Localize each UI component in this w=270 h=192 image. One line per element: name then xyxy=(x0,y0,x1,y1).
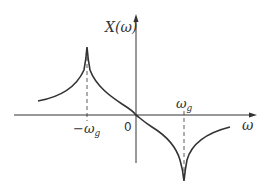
origin-label: 0 xyxy=(124,120,132,134)
response-curve xyxy=(38,47,230,181)
x-axis-label: ω xyxy=(242,117,254,133)
y-axis-label: X(ω) xyxy=(104,19,137,35)
pos-omega-g-label: ωg xyxy=(176,96,193,113)
neg-omega-g-label: −ωg xyxy=(73,121,101,138)
diagram-canvas: X(ω) ω 0 −ωg ωg xyxy=(0,0,270,192)
